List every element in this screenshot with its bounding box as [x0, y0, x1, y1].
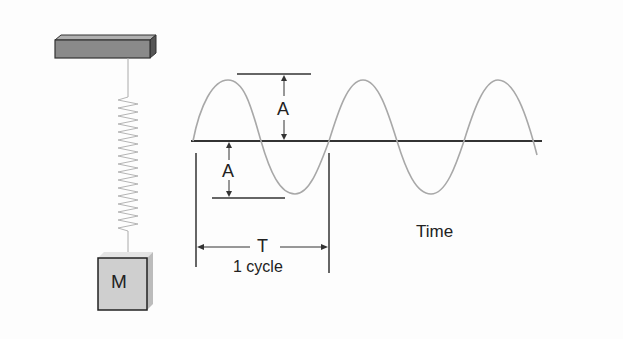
- arrowhead-up-icon: [226, 142, 232, 148]
- period-label: T: [257, 237, 268, 255]
- time-axis-label: Time: [416, 223, 453, 240]
- arrowhead-left-icon: [197, 244, 204, 250]
- arrowhead-down-icon: [281, 134, 287, 140]
- arrowhead-down-icon: [226, 191, 232, 197]
- sine-wave: [193, 80, 537, 194]
- cycle-label: 1 cycle: [233, 259, 283, 275]
- arrowhead-up-icon: [281, 75, 287, 81]
- oscillation-diagram: [0, 0, 623, 339]
- amplitude-label-top: A: [277, 100, 289, 118]
- arrowhead-right-icon: [321, 244, 328, 250]
- ceiling-bar: [55, 35, 156, 58]
- amplitude-label-bottom: A: [222, 162, 234, 180]
- mass-label: M: [111, 272, 127, 291]
- spring: [118, 97, 138, 231]
